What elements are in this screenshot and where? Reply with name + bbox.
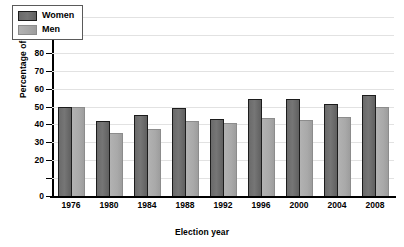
bar-women-2000[interactable] — [286, 99, 300, 196]
x-axis-tick-label: 1992 — [214, 200, 233, 210]
y-axis-tick-label: 40 — [35, 119, 44, 129]
bar-group: 1976 — [52, 17, 90, 196]
legend-label-men: Men — [42, 25, 60, 34]
bar-men-1976[interactable] — [71, 107, 85, 197]
y-axis-tick-label: 60 — [35, 84, 44, 94]
y-axis-tick-label: 20 — [35, 155, 44, 165]
bar-groups: 197619801984198819921996200020042008 — [52, 17, 394, 196]
legend: Women Men — [12, 5, 83, 40]
bar-men-1984[interactable] — [147, 129, 161, 196]
bar-group: 1996 — [242, 17, 280, 196]
bar-men-2000[interactable] — [299, 120, 313, 196]
bar-group: 2000 — [280, 17, 318, 196]
bar-men-2004[interactable] — [337, 117, 351, 196]
legend-swatch-women-icon — [18, 11, 37, 21]
bar-women-2004[interactable] — [324, 104, 338, 196]
x-axis-title: Election year — [0, 227, 404, 237]
legend-swatch-men-icon — [18, 25, 37, 35]
bar-group: 2008 — [356, 17, 394, 196]
bar-men-1996[interactable] — [261, 118, 275, 196]
bar-group: 1984 — [128, 17, 166, 196]
bar-men-1980[interactable] — [109, 133, 123, 196]
legend-label-women: Women — [42, 11, 74, 20]
bar-women-1988[interactable] — [172, 108, 186, 196]
bar-women-1980[interactable] — [96, 121, 110, 196]
bar-women-2008[interactable] — [362, 95, 376, 196]
legend-item-men: Men — [18, 24, 74, 35]
y-axis-tick-label: 70 — [35, 66, 44, 76]
y-axis-tick — [46, 196, 52, 197]
bar-group: 2004 — [318, 17, 356, 196]
bar-women-1992[interactable] — [210, 119, 224, 196]
x-axis-tick-label: 2008 — [366, 200, 385, 210]
bar-women-1984[interactable] — [134, 115, 148, 196]
bar-group: 1980 — [90, 17, 128, 196]
x-axis-tick-label: 1984 — [138, 200, 157, 210]
x-axis-tick-label: 2004 — [328, 200, 347, 210]
y-axis-tick-label: 50 — [35, 102, 44, 112]
bar-women-1996[interactable] — [248, 99, 262, 196]
y-axis-tick-label: 80 — [35, 48, 44, 58]
y-axis-tick-label: 0 — [39, 191, 44, 201]
bar-men-2008[interactable] — [375, 107, 389, 197]
x-axis-tick-label: 1996 — [252, 200, 271, 210]
y-axis-tick-label: 30 — [35, 137, 44, 147]
bar-chart: Percentage of voters Election year 02030… — [0, 0, 404, 247]
bar-group: 1988 — [166, 17, 204, 196]
x-axis-tick-label: 1988 — [176, 200, 195, 210]
x-axis-tick-label: 1976 — [62, 200, 81, 210]
legend-item-women: Women — [18, 10, 74, 21]
bar-group: 1992 — [204, 17, 242, 196]
plot-area: 02030405060708090100 1976198019841988199… — [52, 17, 394, 196]
x-axis-tick-label: 1980 — [100, 200, 119, 210]
bar-men-1988[interactable] — [185, 121, 199, 196]
bar-men-1992[interactable] — [223, 123, 237, 196]
bar-women-1976[interactable] — [58, 107, 72, 197]
x-axis-tick-label: 2000 — [290, 200, 309, 210]
x-axis-line — [50, 196, 396, 198]
